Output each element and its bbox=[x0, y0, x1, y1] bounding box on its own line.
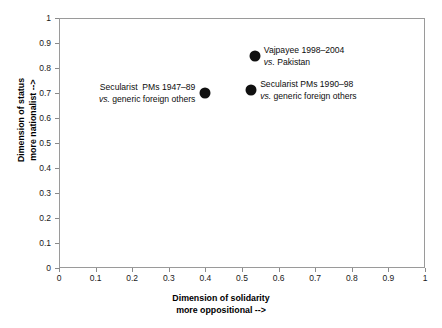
y-tick-mark bbox=[55, 18, 59, 19]
y-tick-label: 0 bbox=[18, 263, 51, 273]
x-tick-label: 0.1 bbox=[81, 273, 111, 283]
x-tick-label: 0.5 bbox=[227, 273, 257, 283]
y-axis-title-line1: Dimension of status bbox=[16, 45, 28, 195]
y-axis-title: Dimension of status more nationalist --> bbox=[16, 45, 39, 195]
x-tick-label: 0.3 bbox=[154, 273, 184, 283]
data-point-label: Vajpayee 1998–2004vs. Pakistan bbox=[264, 45, 345, 68]
x-tick-mark bbox=[352, 268, 353, 272]
scatter-chart: 00.10.20.30.40.50.60.70.80.91 00.10.20.3… bbox=[0, 0, 442, 328]
x-tick-label: 1 bbox=[410, 273, 440, 283]
x-tick-label: 0.6 bbox=[264, 273, 294, 283]
y-tick-label: 0.2 bbox=[18, 213, 51, 223]
y-axis-title-line2: more nationalist --> bbox=[28, 45, 40, 195]
x-tick-label: 0.8 bbox=[337, 273, 367, 283]
y-tick-mark bbox=[55, 118, 59, 119]
data-point bbox=[246, 85, 257, 96]
y-tick-mark bbox=[55, 43, 59, 44]
y-tick-mark bbox=[55, 268, 59, 269]
x-axis-title-line1: Dimension of solidarity bbox=[0, 292, 442, 304]
y-tick-mark bbox=[55, 143, 59, 144]
x-axis-title-line2: more oppositional --> bbox=[0, 304, 442, 316]
x-tick-mark bbox=[132, 268, 133, 272]
x-tick-label: 0.2 bbox=[117, 273, 147, 283]
x-tick-label: 0.7 bbox=[300, 273, 330, 283]
x-tick-mark bbox=[96, 268, 97, 272]
x-tick-label: 0.4 bbox=[190, 273, 220, 283]
x-tick-mark bbox=[279, 268, 280, 272]
y-tick-mark bbox=[55, 193, 59, 194]
plot-area bbox=[59, 18, 425, 268]
data-point-label-line1: Secularist PMs 1990–98 bbox=[260, 79, 357, 91]
data-point-label: Secularist PMs 1990–98vs. generic foreig… bbox=[260, 79, 357, 102]
x-tick-mark bbox=[315, 268, 316, 272]
x-tick-mark bbox=[425, 268, 426, 272]
y-tick-mark bbox=[55, 168, 59, 169]
data-point bbox=[249, 51, 260, 62]
x-tick-mark bbox=[169, 268, 170, 272]
y-tick-mark bbox=[55, 243, 59, 244]
x-tick-mark bbox=[242, 268, 243, 272]
y-tick-label: 0.1 bbox=[18, 238, 51, 248]
x-axis-title: Dimension of solidarity more oppositiona… bbox=[0, 292, 442, 316]
x-tick-label: 0.9 bbox=[373, 273, 403, 283]
x-tick-label: 0 bbox=[44, 273, 74, 283]
y-tick-mark bbox=[55, 68, 59, 69]
x-tick-mark bbox=[59, 268, 60, 272]
data-point-label-line1: Vajpayee 1998–2004 bbox=[264, 45, 345, 57]
y-axis-title-wrap: Dimension of status more nationalist --> bbox=[16, 45, 40, 195]
data-point bbox=[200, 88, 211, 99]
x-tick-mark bbox=[205, 268, 206, 272]
y-tick-label: 1 bbox=[18, 13, 51, 23]
data-point-label-line2: vs. Pakistan bbox=[264, 57, 345, 69]
x-tick-mark bbox=[388, 268, 389, 272]
y-tick-mark bbox=[55, 218, 59, 219]
data-point-label-line2: vs. generic foreign others bbox=[260, 91, 357, 103]
